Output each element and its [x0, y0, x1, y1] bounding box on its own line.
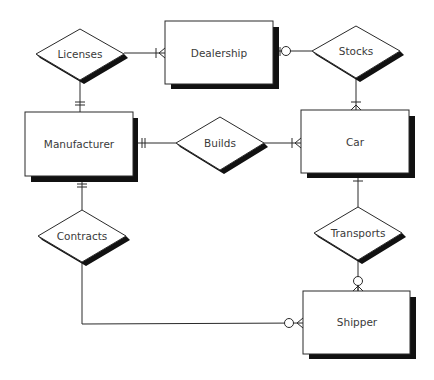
- entity-shipper[interactable]: Shipper: [303, 291, 416, 359]
- crows-foot-zero-or-many-icon: [353, 277, 363, 292]
- relationship-contracts[interactable]: Contracts: [38, 210, 130, 266]
- contracts-shipper-line: [82, 262, 303, 324]
- relationship-transports[interactable]: Transports: [314, 207, 406, 264]
- relationship-label: Stocks: [339, 45, 374, 57]
- relationship-builds[interactable]: Builds: [176, 117, 268, 174]
- relationship-label: Licenses: [57, 48, 102, 60]
- relationship-licenses[interactable]: Licenses: [36, 29, 128, 84]
- connectors: [80, 51, 358, 324]
- entity-car[interactable]: Car: [301, 110, 415, 178]
- entity-label: Shipper: [337, 316, 378, 328]
- entity-label: Manufacturer: [44, 138, 115, 150]
- relationship-stocks[interactable]: Stocks: [312, 26, 404, 82]
- relationship-label: Builds: [204, 137, 236, 149]
- er-diagram: Licenses Stocks Builds Contracts Transpo…: [0, 0, 434, 380]
- entity-manufacturer[interactable]: Manufacturer: [25, 112, 138, 182]
- entity-label: Dealership: [191, 47, 248, 59]
- zero-or-one-icon: [280, 47, 291, 57]
- relationship-label: Transports: [330, 227, 386, 239]
- entity-label: Car: [346, 136, 365, 148]
- relationship-label: Contracts: [57, 230, 108, 242]
- entity-dealership[interactable]: Dealership: [165, 21, 279, 89]
